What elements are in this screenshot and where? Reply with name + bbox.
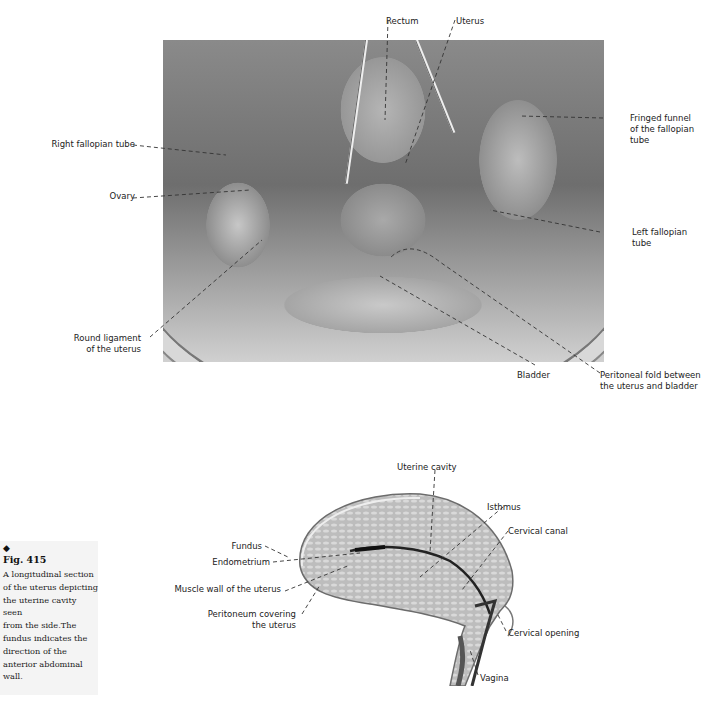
label-rectum: Rectum xyxy=(386,16,418,27)
retractor-rod-right xyxy=(415,40,455,133)
label-peritoneum-1: Peritoneum covering xyxy=(208,609,296,620)
label-uterine-cavity: Uterine cavity xyxy=(397,462,457,473)
label-uterus: Uterus xyxy=(456,16,484,27)
label-cervical-canal: Cervical canal xyxy=(508,526,568,537)
label-fringed-funnel-1: Fringed funnel xyxy=(630,113,691,124)
figure-caption: ◆ Fig. 415 A longitudinal section of the… xyxy=(0,541,98,695)
label-bladder: Bladder xyxy=(517,370,550,381)
label-left-fallopian-2: tube xyxy=(632,238,651,249)
label-right-fallopian-tube: Right fallopian tube xyxy=(51,139,135,150)
uterus-section-illustration xyxy=(290,486,520,686)
label-peritoneum-2: the uterus xyxy=(252,620,296,631)
abdominal-wall-section xyxy=(163,265,604,362)
label-round-ligament-2: of the uterus xyxy=(86,344,141,355)
label-round-ligament-1: Round ligament xyxy=(74,333,141,344)
caption-text: A longitudinal section of the uterus dep… xyxy=(3,568,98,683)
label-ovary: Ovary xyxy=(110,191,135,202)
label-peritoneal-fold-1: Peritoneal fold between xyxy=(600,370,701,381)
label-isthmus: Isthmus xyxy=(487,502,521,513)
label-fringed-funnel-2: of the fallopian xyxy=(630,124,694,135)
label-cervical-opening: Cervical opening xyxy=(508,628,579,639)
caption-marker-icon: ◆ xyxy=(3,543,10,553)
label-left-fallopian-1: Left fallopian xyxy=(632,227,687,238)
label-fringed-funnel-3: tube xyxy=(630,135,649,146)
label-muscle-wall: Muscle wall of the uterus xyxy=(174,584,281,595)
label-vagina: Vagina xyxy=(480,673,509,684)
label-endometrium: Endometrium xyxy=(212,557,270,568)
label-peritoneal-fold-2: the uterus and bladder xyxy=(600,381,698,392)
pelvic-organs-illustration xyxy=(163,40,604,362)
retractor-rod-left xyxy=(345,40,368,184)
label-fundus: Fundus xyxy=(232,541,262,552)
figure-number: Fig. 415 xyxy=(3,554,46,565)
